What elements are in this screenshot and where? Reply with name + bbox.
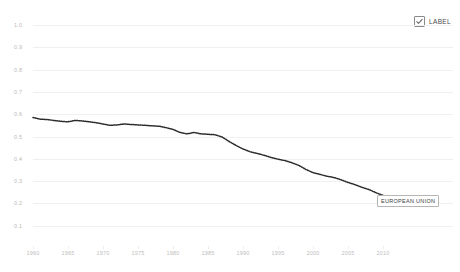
series-line-european-union bbox=[33, 118, 404, 206]
series-annotation-european-union[interactable]: EUROPEAN UNION bbox=[377, 195, 439, 207]
chart-page: LABEL 1.00.90.80.70.60.50.40.30.20.11960… bbox=[0, 0, 460, 272]
series-layer bbox=[0, 0, 460, 272]
